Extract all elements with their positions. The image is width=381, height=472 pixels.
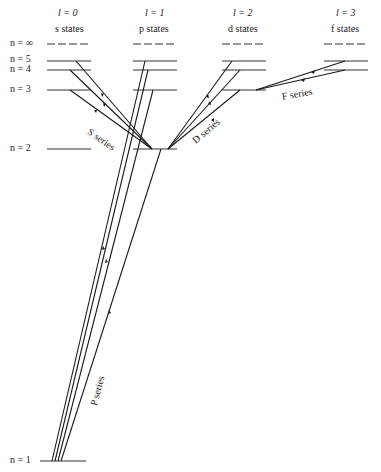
state-label-f: f states [331,23,359,34]
level-label-ninf: n = ∞ [10,37,33,48]
l-label-1: l = 1 [145,7,165,18]
l-label-0: l = 0 [58,7,78,18]
state-label-d: d states [228,23,258,34]
l-label-2: l = 2 [233,7,253,18]
l-label-3: l = 3 [336,7,356,18]
level-label-n2: n = 2 [10,142,31,153]
state-label-s: s states [55,23,84,34]
state-label-p: p states [139,23,169,34]
level-label-n4: n = 4 [10,63,31,74]
level-label-n3: n = 3 [10,83,31,94]
level-label-n1: n = 1 [10,454,31,465]
energy-level-diagram [0,0,381,472]
